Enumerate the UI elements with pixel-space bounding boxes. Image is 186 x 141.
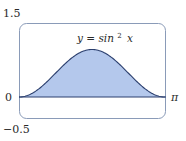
y-tick-label-0: 0 [5,91,12,104]
y-tick-label-1.5: 1.5 [3,7,21,20]
y-tick-label-neg0.5: −0.5 [3,123,30,136]
sine-squared-chart: 1.5 0 −0.5 π y = sin 2 x [0,0,186,141]
equation-annotation: y = sin 2 x [76,28,133,44]
equation-variable: x [127,32,133,44]
equation-lhs: y = sin [76,32,114,44]
equation-exponent: 2 [117,32,121,40]
x-tick-label-pi: π [170,91,179,104]
area-fill [19,50,165,98]
